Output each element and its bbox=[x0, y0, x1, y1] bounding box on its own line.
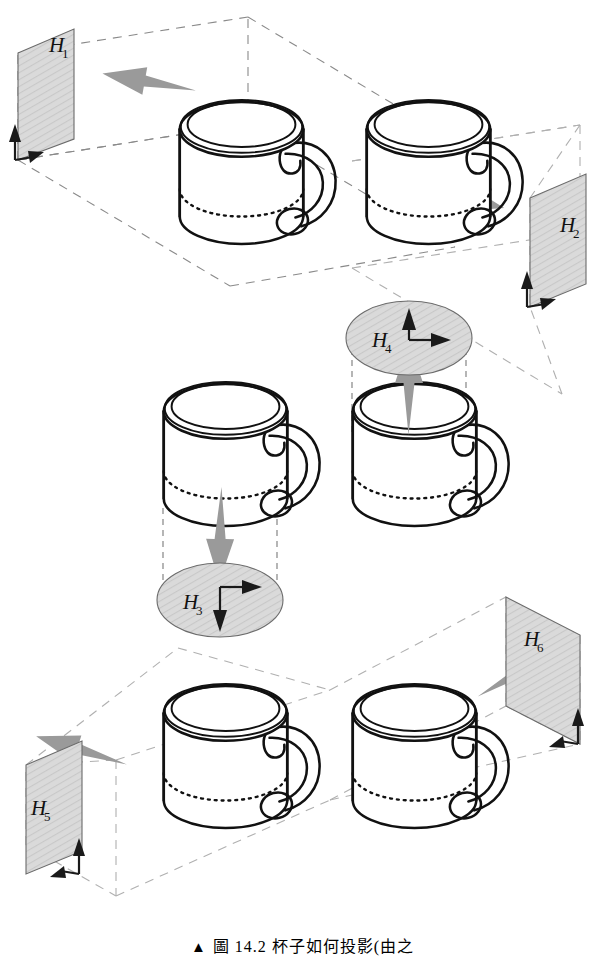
caption-marker-icon: ▲ bbox=[191, 936, 207, 958]
projection-diagram: H 1 H 2 bbox=[0, 0, 605, 958]
plane-label-h6-sub: 6 bbox=[537, 640, 544, 655]
view-4-mug bbox=[353, 382, 509, 526]
view-1-projection-arrow bbox=[100, 60, 198, 104]
view-1-mug bbox=[180, 100, 336, 244]
plane-label-h4-sub: 4 bbox=[385, 341, 392, 356]
view-3-mug bbox=[164, 382, 320, 526]
view-1-plane-h1: H 1 bbox=[18, 29, 74, 160]
view-6-mug bbox=[353, 684, 509, 828]
view-2-plane-h2: H 2 bbox=[530, 174, 586, 307]
view-5-mug bbox=[164, 684, 320, 828]
caption-text: 圖 14.2 杯子如何投影(由之 bbox=[213, 936, 414, 958]
view-6-plane-h6: H 6 bbox=[506, 597, 580, 744]
plane-label-h2-sub: 2 bbox=[573, 226, 580, 241]
plane-label-h5-sub: 5 bbox=[44, 809, 51, 824]
view-2-mug bbox=[367, 100, 523, 244]
figure-caption: ▲ 圖 14.2 杯子如何投影(由之 bbox=[0, 936, 605, 958]
figure-root: H 1 H 2 bbox=[0, 0, 605, 958]
view-5-plane-h5: H 5 bbox=[26, 741, 82, 874]
plane-label-h3-sub: 3 bbox=[196, 603, 203, 618]
plane-label-h1-sub: 1 bbox=[62, 46, 69, 61]
